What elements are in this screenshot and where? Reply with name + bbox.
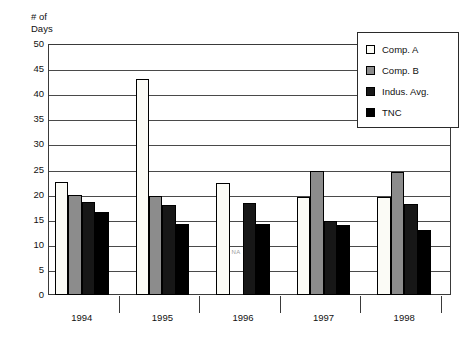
gridline [49, 171, 450, 172]
y-tick-label: 35 [4, 114, 44, 124]
legend-swatch-tnc [366, 108, 375, 117]
legend-swatch-comp-a [366, 45, 375, 54]
legend-label: Comp. A [382, 44, 418, 55]
y-tick-label: 0 [4, 290, 44, 300]
legend-item: TNC [366, 102, 458, 123]
legend-item: Indus. Avg. [366, 81, 458, 102]
y-tick-label: 50 [4, 39, 44, 49]
x-tick-label-1995: 1995 [142, 312, 182, 323]
legend-label: TNC [382, 107, 402, 118]
y-tick-label: 45 [4, 64, 44, 74]
legend-label: Comp. B [382, 65, 419, 76]
x-axis-tick [280, 296, 281, 313]
x-tick-label-1997: 1997 [304, 312, 344, 323]
y-tick-label: 5 [4, 265, 44, 275]
y-axis-title: # of Days [31, 11, 53, 34]
x-axis-tick [360, 296, 361, 313]
gridline [49, 221, 450, 222]
legend-item: Comp. B [366, 60, 458, 81]
y-tick-label: 25 [4, 165, 44, 175]
y-tick-label: 40 [4, 89, 44, 99]
legend-swatch-indus-avg [366, 87, 375, 96]
y-tick-label: 20 [4, 190, 44, 200]
gridline [49, 145, 450, 146]
chart-legend: Comp. A Comp. B Indus. Avg. TNC [357, 32, 459, 128]
y-tick-label: 15 [4, 215, 44, 225]
gridline [49, 271, 450, 272]
partial-title-strip [0, 0, 465, 7]
x-axis-tick [119, 296, 120, 313]
legend-swatch-comp-b [366, 66, 375, 75]
bar-chart: # of Days 50454035302520151050 NA 199419… [0, 0, 465, 337]
x-axis-tick [441, 296, 442, 313]
legend-item: Comp. A [366, 39, 458, 60]
x-tick-label-1998: 1998 [384, 312, 424, 323]
y-tick-label: 30 [4, 139, 44, 149]
x-tick-label-1994: 1994 [62, 312, 102, 323]
legend-label: Indus. Avg. [382, 86, 429, 97]
x-tick-label-1996: 1996 [223, 312, 263, 323]
y-axis-ticks: 50454035302520151050 [0, 44, 44, 295]
gridline [49, 196, 450, 197]
x-axis-tick [199, 296, 200, 313]
gridline [49, 246, 450, 247]
y-tick-label: 10 [4, 240, 44, 250]
